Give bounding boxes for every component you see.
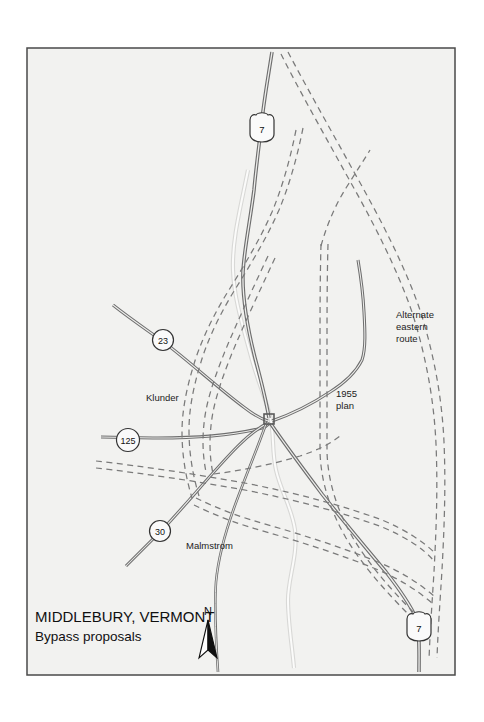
route-marker-vt125-number: 125 bbox=[120, 436, 135, 446]
north-arrow-label: N bbox=[204, 605, 212, 617]
route-marker-us7-north[interactable]: 7 bbox=[250, 113, 274, 142]
map-title-line2: Bypass proposals bbox=[35, 629, 142, 644]
label-klunder: Klunder bbox=[146, 392, 179, 403]
route-marker-vt30-number: 30 bbox=[155, 527, 165, 537]
label-alternate-eastern-route-line3: route bbox=[396, 333, 418, 344]
label-alternate-eastern-route-line1: Alternate bbox=[396, 309, 434, 320]
route-marker-us7-south-number: 7 bbox=[416, 623, 421, 634]
map-canvas: 7 23 125 30 7 Klunder Malmstrom 1955 pla… bbox=[0, 0, 484, 722]
map-figure: 7 23 125 30 7 Klunder Malmstrom 1955 pla… bbox=[0, 0, 484, 722]
label-alternate-eastern-route-line2: eastern bbox=[396, 321, 428, 332]
label-1955-plan-line2: plan bbox=[336, 400, 354, 411]
route-marker-us7-north-number: 7 bbox=[259, 124, 264, 135]
label-malmstrom: Malmstrom bbox=[186, 540, 233, 551]
route-marker-vt125[interactable]: 125 bbox=[117, 429, 140, 452]
route-marker-us7-south[interactable]: 7 bbox=[407, 612, 431, 641]
map-title-line1: MIDDLEBURY, VERMONT bbox=[35, 608, 214, 625]
route-marker-vt23-number: 23 bbox=[158, 336, 168, 346]
route-marker-vt23[interactable]: 23 bbox=[153, 330, 174, 351]
label-1955-plan-line1: 1955 bbox=[336, 388, 357, 399]
route-marker-vt30[interactable]: 30 bbox=[150, 521, 171, 542]
